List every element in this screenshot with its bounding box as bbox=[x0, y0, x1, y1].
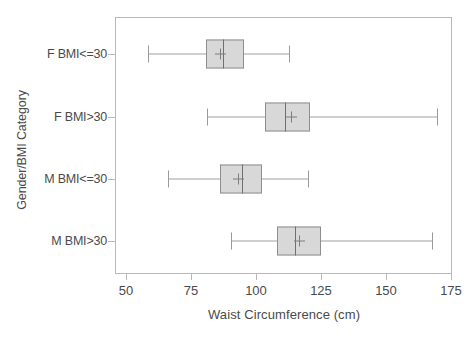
whisker-cap-lower bbox=[231, 233, 232, 250]
x-tick-label: 75 bbox=[161, 283, 221, 298]
y-axis-title: Gender/BMI Category bbox=[15, 50, 29, 250]
x-tick-mark bbox=[256, 274, 257, 280]
whisker-lower bbox=[148, 54, 206, 55]
x-tick-mark bbox=[386, 274, 387, 280]
mean-plus-marker bbox=[233, 174, 244, 185]
x-tick-label: 150 bbox=[356, 283, 416, 298]
whisker-lower bbox=[231, 241, 277, 242]
x-tick-label: 50 bbox=[96, 283, 156, 298]
whisker-upper bbox=[244, 54, 289, 55]
x-tick-label: 125 bbox=[291, 283, 351, 298]
x-tick-mark bbox=[321, 274, 322, 280]
x-tick-label: 175 bbox=[421, 283, 476, 298]
whisker-upper bbox=[310, 117, 437, 118]
x-tick-mark bbox=[126, 274, 127, 280]
whisker-lower bbox=[168, 179, 220, 180]
whisker-upper bbox=[262, 179, 308, 180]
whisker-cap-upper bbox=[432, 233, 433, 250]
whisker-cap-lower bbox=[148, 46, 149, 63]
x-tick-mark bbox=[451, 274, 452, 280]
whisker-lower bbox=[207, 117, 265, 118]
x-axis-title: Waist Circumference (cm) bbox=[115, 307, 453, 322]
category-tick-label: M BMI<=30 bbox=[0, 172, 107, 186]
mean-plus-marker bbox=[215, 49, 226, 60]
whisker-cap-lower bbox=[168, 171, 169, 188]
category-tick-mark bbox=[108, 54, 115, 55]
whisker-cap-lower bbox=[207, 109, 208, 126]
category-tick-mark bbox=[108, 241, 115, 242]
whisker-cap-upper bbox=[437, 109, 438, 126]
category-tick-mark bbox=[108, 179, 115, 180]
mean-plus-marker bbox=[286, 112, 297, 123]
x-tick-label: 100 bbox=[226, 283, 286, 298]
category-tick-label: F BMI>30 bbox=[0, 110, 107, 124]
whisker-upper bbox=[321, 241, 432, 242]
whisker-cap-upper bbox=[308, 171, 309, 188]
mean-plus-marker bbox=[294, 236, 305, 247]
category-tick-label: M BMI>30 bbox=[0, 234, 107, 248]
boxplot-chart: Gender/BMI Category F BMI<=30F BMI>30M B… bbox=[0, 0, 476, 344]
category-tick-mark bbox=[108, 117, 115, 118]
category-tick-label: F BMI<=30 bbox=[0, 47, 107, 61]
x-tick-mark bbox=[191, 274, 192, 280]
whisker-cap-upper bbox=[289, 46, 290, 63]
